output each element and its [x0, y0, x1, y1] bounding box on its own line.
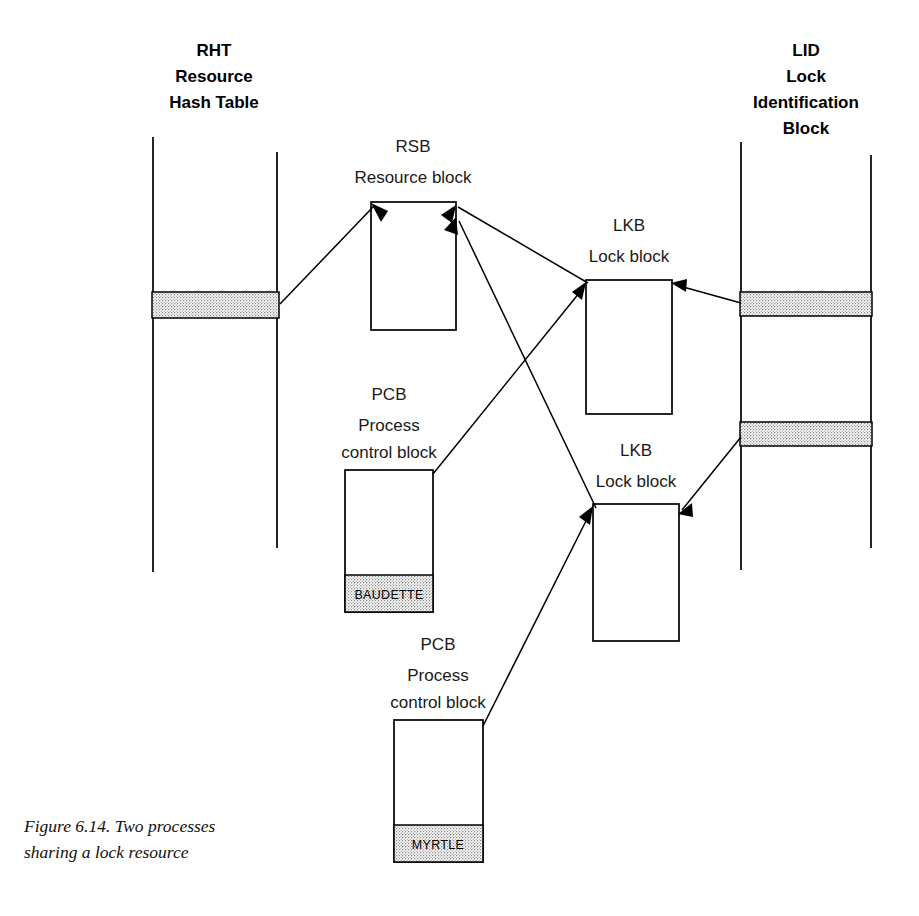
edge-pcb-myrtle-to-lkb-lower: [483, 506, 593, 726]
lid-column: [740, 142, 872, 570]
pcb-myrtle-name-line2: control block: [390, 693, 486, 712]
rht-title-line1: RHT: [197, 41, 233, 60]
lkb-lower-block[interactable]: [593, 504, 679, 641]
lid-title-line1: LID: [792, 41, 819, 60]
pcb-baudette-tag-label: BAUDETTE: [354, 588, 423, 602]
lkb-upper-abbr-label: LKB: [613, 216, 645, 235]
figure-caption-line2: sharing a lock resource: [24, 842, 189, 862]
rsb-name-label: Resource block: [354, 168, 472, 187]
edge-lkb-upper-to-rsb-line: [458, 207, 588, 283]
lkb-lower-block-group: LKB Lock block: [593, 441, 679, 641]
pcb-baudette-group: PCB Process control block BAUDETTE: [341, 385, 437, 612]
lid-column-header: LID Lock Identification Block: [753, 41, 859, 138]
edge-pcb-myrtle-to-lkb-lower-line: [483, 511, 591, 726]
lock-resource-diagram: RHT Resource Hash Table LID Lock Identif…: [0, 0, 919, 916]
lkb-lower-name-label: Lock block: [596, 472, 677, 491]
edge-lid2-to-lkb-lower-line: [682, 437, 741, 510]
figure-caption: Figure 6.14. Two processes sharing a loc…: [23, 816, 216, 862]
lid-entry-2-shaded[interactable]: [740, 422, 872, 446]
lid-title-line3: Identification: [753, 93, 859, 112]
edge-pcb-baudette-to-lkb-upper-arrowhead: [572, 282, 586, 300]
pcb-myrtle-abbr-label: PCB: [421, 635, 456, 654]
lid-entry-1-shaded[interactable]: [740, 292, 872, 316]
rht-title-line2: Resource: [175, 67, 252, 86]
pcb-baudette-abbr-label: PCB: [372, 385, 407, 404]
lkb-upper-name-label: Lock block: [589, 247, 670, 266]
figure-caption-line1: Figure 6.14. Two processes: [23, 816, 216, 836]
pcb-baudette-name-line1: Process: [358, 416, 419, 435]
edge-rht-to-rsb-line: [280, 206, 374, 304]
edge-lid1-to-lkb-upper: [671, 279, 741, 303]
edge-lkb-lower-to-rsb: [444, 217, 596, 508]
lkb-upper-block-group: LKB Lock block: [586, 216, 672, 414]
pcb-myrtle-name-line1: Process: [407, 666, 468, 685]
lid-title-line4: Block: [783, 119, 830, 138]
edge-lid1-to-lkb-upper-arrowhead: [671, 279, 687, 292]
lkb-lower-abbr-label: LKB: [620, 441, 652, 460]
rht-column-header: RHT Resource Hash Table: [169, 41, 258, 112]
edge-lid2-to-lkb-lower: [678, 437, 741, 517]
edge-lkb-upper-to-rsb: [441, 205, 588, 283]
rsb-abbr-label: RSB: [396, 137, 431, 156]
edge-lkb-lower-to-rsb-line: [459, 221, 596, 508]
lid-title-line2: Lock: [786, 67, 826, 86]
pcb-myrtle-group: PCB Process control block MYRTLE: [390, 635, 486, 862]
pcb-myrtle-tag-label: MYRTLE: [412, 838, 464, 852]
lkb-upper-block[interactable]: [586, 280, 672, 414]
rht-column: [152, 137, 279, 572]
rsb-block[interactable]: [371, 202, 456, 330]
rht-entry-shaded[interactable]: [152, 292, 279, 318]
pcb-baudette-name-line2: control block: [341, 443, 437, 462]
rht-title-line3: Hash Table: [169, 93, 258, 112]
